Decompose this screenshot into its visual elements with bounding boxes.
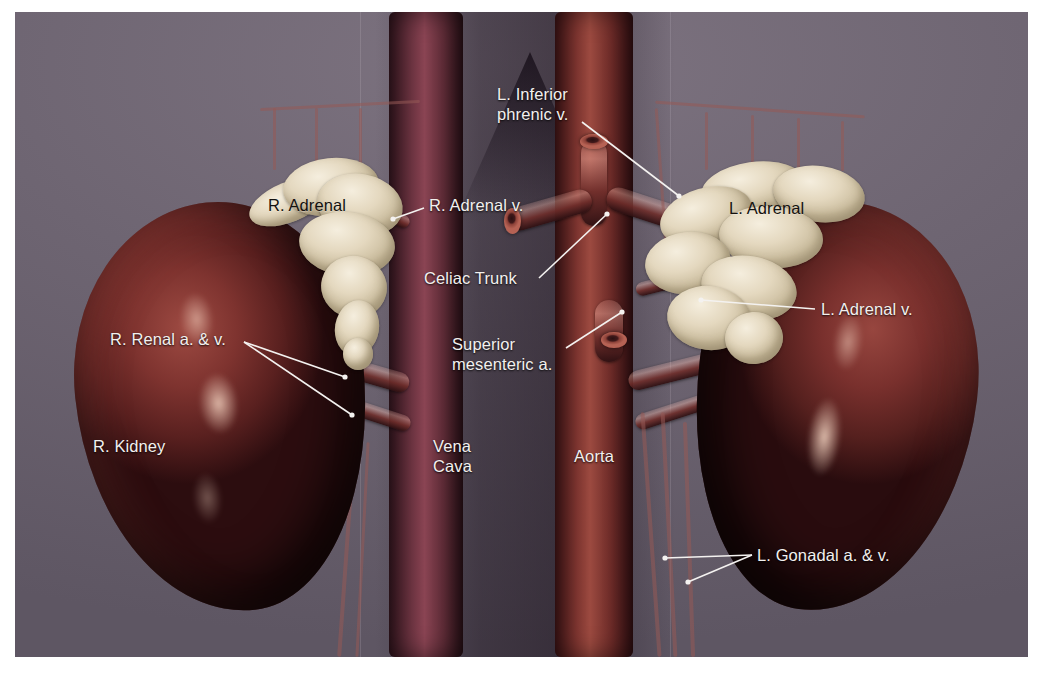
label-l-inferior-phrenic-v: L. Inferior phrenic v. xyxy=(497,84,568,124)
label-celiac-trunk: Celiac Trunk xyxy=(424,268,517,288)
label-superior-mesenteric-a: Superior mesenteric a. xyxy=(452,334,552,374)
illustration-page: L. Inferior phrenic v.R. AdrenalR. Adren… xyxy=(0,0,1047,684)
label-layer: L. Inferior phrenic v.R. AdrenalR. Adren… xyxy=(15,12,1028,657)
anatomy-illustration-plate: L. Inferior phrenic v.R. AdrenalR. Adren… xyxy=(15,12,1028,657)
label-r-adrenal: R. Adrenal xyxy=(268,195,346,215)
label-l-gonadal-a-v: L. Gonadal a. & v. xyxy=(757,545,890,565)
label-r-kidney: R. Kidney xyxy=(93,436,165,456)
label-l-adrenal-v: L. Adrenal v. xyxy=(821,299,913,319)
label-vena-cava: Vena Cava xyxy=(433,436,472,476)
label-aorta: Aorta xyxy=(574,446,614,466)
label-r-renal-a-v: R. Renal a. & v. xyxy=(110,329,226,349)
label-r-adrenal-v: R. Adrenal v. xyxy=(429,195,524,215)
label-l-adrenal: L. Adrenal xyxy=(729,198,804,218)
